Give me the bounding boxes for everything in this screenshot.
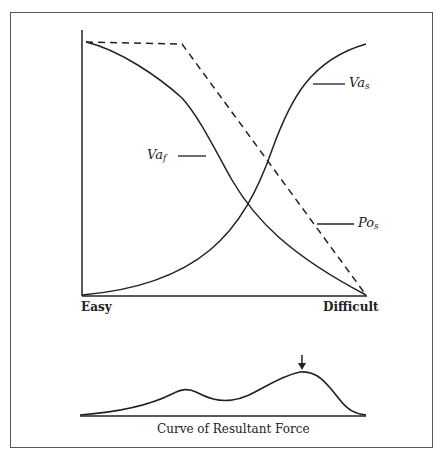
label-po-s: Pos	[358, 215, 379, 231]
curve-va-f	[86, 42, 366, 295]
label-va-f: Vaf	[147, 147, 166, 163]
x-axis-label-easy: Easy	[81, 300, 112, 314]
curve-resultant-force	[80, 372, 366, 415]
x-axis-label-difficult: Difficult	[323, 300, 379, 314]
curve-va-s	[82, 44, 366, 295]
label-va-s: Vas	[349, 75, 370, 91]
arrow-down-icon	[298, 363, 306, 370]
subchart-caption: Curve of Resultant Force	[157, 422, 309, 436]
